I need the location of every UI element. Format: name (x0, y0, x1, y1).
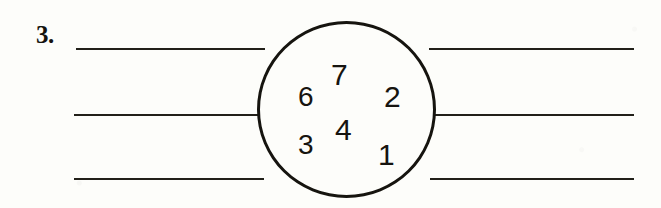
number-circle (257, 21, 436, 198)
circle-number-2: 2 (384, 82, 401, 112)
answer-rule-1-right (429, 48, 634, 50)
answer-rule-1-left (76, 48, 265, 50)
circle-number-6: 6 (298, 83, 314, 111)
worksheet-canvas: 3. 7 6 2 4 3 1 (0, 0, 661, 208)
item-number-label: 3. (36, 22, 54, 47)
answer-rule-3-left (74, 178, 264, 180)
circle-number-3: 3 (298, 131, 314, 159)
circle-number-4: 4 (335, 115, 352, 145)
answer-rule-2-right (433, 114, 634, 116)
answer-rule-2-left (74, 114, 261, 116)
circle-number-7: 7 (331, 60, 348, 90)
answer-rule-3-right (430, 178, 634, 180)
circle-number-1: 1 (378, 140, 395, 170)
